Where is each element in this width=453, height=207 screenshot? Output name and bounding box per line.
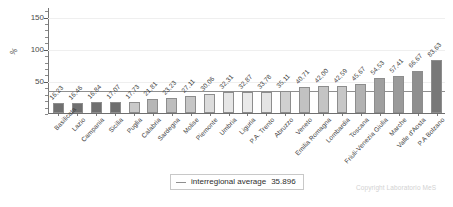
bar-slot: 40,71 bbox=[299, 8, 310, 113]
bar[interactable] bbox=[242, 92, 253, 113]
bar-slot: 35,11 bbox=[280, 8, 291, 113]
bar-slot: 42,59 bbox=[337, 8, 348, 113]
bar-value-label: 17,07 bbox=[105, 83, 122, 100]
bar[interactable] bbox=[166, 98, 177, 113]
bar[interactable] bbox=[318, 86, 329, 113]
bar-series: 16,2316,4616,8417,0717,7321,8123,2327,11… bbox=[48, 8, 445, 113]
bar[interactable] bbox=[299, 87, 310, 113]
bar-value-label: 57,41 bbox=[388, 57, 405, 74]
bar-value-label: 23,23 bbox=[161, 79, 178, 96]
bar-value-label: 35,11 bbox=[275, 72, 291, 89]
bar-slot: 54,53 bbox=[374, 8, 385, 113]
bar-value-label: 33,78 bbox=[256, 72, 273, 89]
chart-legend: interregional average 35.896 bbox=[170, 174, 304, 190]
bar-value-label: 40,71 bbox=[294, 68, 311, 85]
legend-value: 35.896 bbox=[271, 177, 295, 187]
bar[interactable] bbox=[337, 86, 348, 113]
bar[interactable] bbox=[147, 99, 158, 113]
bar-value-label: 17,73 bbox=[123, 83, 140, 100]
bar[interactable] bbox=[280, 91, 291, 113]
bar[interactable] bbox=[431, 60, 442, 113]
bar[interactable] bbox=[355, 84, 366, 113]
bar-slot: 32,31 bbox=[223, 8, 234, 113]
bar-value-label: 30,06 bbox=[199, 75, 216, 92]
bar-slot: 42,00 bbox=[318, 8, 329, 113]
bar-slot: 16,46 bbox=[72, 8, 83, 113]
bar-slot: 32,87 bbox=[242, 8, 253, 113]
bar-value-label: 42,59 bbox=[331, 67, 348, 84]
bar[interactable] bbox=[374, 78, 385, 113]
bar-slot: 16,84 bbox=[91, 8, 102, 113]
legend-label: interregional average bbox=[191, 177, 266, 187]
bar-slot: 17,73 bbox=[129, 8, 140, 113]
bar-value-label: 16,46 bbox=[67, 83, 84, 100]
bar[interactable] bbox=[185, 96, 196, 113]
bar-slot: 21,81 bbox=[147, 8, 158, 113]
bar[interactable] bbox=[53, 103, 64, 113]
bar-slot: 66,67 bbox=[412, 8, 423, 113]
bar-value-label: 66,67 bbox=[407, 52, 424, 69]
bar-slot: 23,23 bbox=[166, 8, 177, 113]
x-axis-label: Basilicata bbox=[53, 116, 68, 131]
bar-value-label: 32,87 bbox=[237, 73, 254, 90]
bar-slot: 33,78 bbox=[261, 8, 272, 113]
bar-slot: 27,11 bbox=[185, 8, 196, 113]
bar-slot: 45,67 bbox=[355, 8, 366, 113]
bar-value-label: 83,63 bbox=[426, 41, 443, 58]
plot-area: 16,2316,4616,8417,0717,7321,8123,2327,11… bbox=[48, 8, 445, 114]
bar-slot: 30,06 bbox=[204, 8, 215, 113]
bar[interactable] bbox=[223, 92, 234, 113]
y-axis-minor-tick bbox=[45, 114, 48, 115]
bar-value-label: 21,81 bbox=[142, 80, 159, 97]
bar[interactable] bbox=[412, 71, 423, 113]
bar-value-label: 54,53 bbox=[369, 59, 386, 76]
bar-value-label: 45,67 bbox=[350, 65, 367, 82]
bar[interactable] bbox=[91, 102, 102, 113]
bar-slot: 83,63 bbox=[431, 8, 442, 113]
bar-slot: 57,41 bbox=[393, 8, 404, 113]
bar-value-label: 32,31 bbox=[218, 73, 235, 90]
legend-line-swatch bbox=[176, 182, 186, 183]
bar-chart: 50100150 % 16,2316,4616,8417,0717,7321,8… bbox=[0, 0, 453, 207]
copyright-notice: Copyright Laboratorio MeS bbox=[356, 184, 436, 191]
bar-value-label: 16,23 bbox=[48, 84, 65, 101]
y-axis-tick-label: 150 bbox=[22, 14, 44, 22]
bar[interactable] bbox=[393, 76, 404, 113]
bar-slot: 16,23 bbox=[53, 8, 64, 113]
x-axis-category-labels: BasilicataLazioCampaniaSiciliaPugliaCala… bbox=[48, 116, 445, 178]
bar-value-label: 42,00 bbox=[313, 67, 330, 84]
bar[interactable] bbox=[129, 102, 140, 113]
x-axis-spine bbox=[48, 113, 445, 114]
y-axis-tick-label: 50 bbox=[22, 78, 44, 86]
y-axis-title: % bbox=[8, 46, 19, 57]
y-axis-tick-label: 100 bbox=[22, 46, 44, 54]
bar-value-label: 16,84 bbox=[86, 83, 103, 100]
bar[interactable] bbox=[204, 94, 215, 113]
y-axis-tick-labels: 50100150 bbox=[20, 0, 44, 207]
bar-slot: 17,07 bbox=[110, 8, 121, 113]
bar-value-label: 27,11 bbox=[180, 77, 196, 94]
bar[interactable] bbox=[261, 92, 272, 113]
bar[interactable] bbox=[110, 102, 121, 113]
